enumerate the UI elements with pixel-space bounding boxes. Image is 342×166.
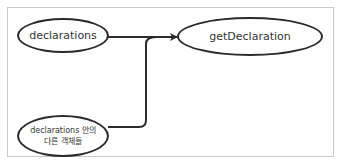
node-label-line2: 다른 객체들 [44,136,82,147]
node-declarations: declarations [17,18,109,53]
node-label-line1: declarations 안의 [30,125,96,136]
node-getdeclaration: getDeclaration [177,17,323,56]
node-label: declarations [29,29,97,42]
node-other-objects: declarations 안의 다른 객체들 [17,115,109,157]
edge-other-objects-to-getdeclaration [108,37,156,127]
node-label: getDeclaration [209,30,290,43]
